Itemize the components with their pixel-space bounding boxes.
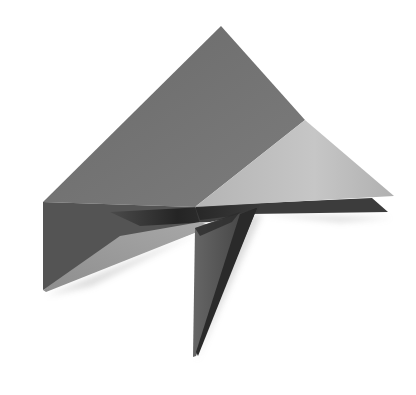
origami-figure — [0, 0, 416, 395]
